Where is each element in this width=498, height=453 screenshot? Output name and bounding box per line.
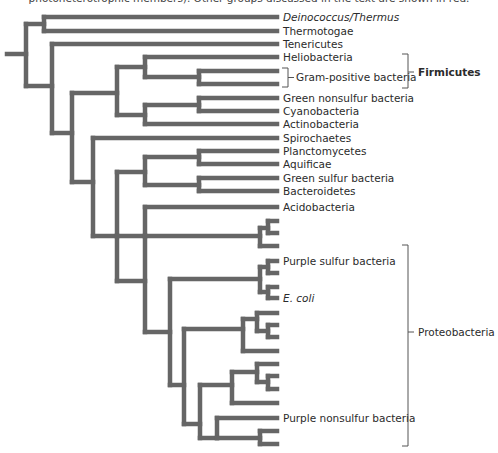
leaf-label-gram-positive: Gram-positive bacteria (296, 71, 417, 83)
leaf-label-deinococcus: Deinococcus/Thermus (283, 11, 399, 23)
leaf-label-bacteroidetes: Bacteroidetes (283, 185, 356, 197)
leaf-label-actinobacteria: Actinobacteria (283, 118, 359, 130)
group-bracket (282, 68, 288, 87)
leaf-label-purple-sulfur: Purple sulfur bacteria (283, 255, 396, 267)
leaf-label-green-sulfur: Green sulfur bacteria (283, 172, 394, 184)
group-label-proteobacteria: Proteobacteria (418, 326, 495, 338)
leaf-label-purple-nonsulfur: Purple nonsulfur bacteria (283, 412, 415, 424)
leaf-label-tenericutes: Tenericutes (283, 38, 343, 50)
leaf-label-cyanobacteria: Cyanobacteria (283, 105, 359, 117)
leaf-label-spirochaetes: Spirochaetes (283, 132, 351, 144)
leaf-label-e-coli: E. coli (283, 292, 314, 304)
group-label-firmicutes: Firmicutes (418, 66, 481, 78)
leaf-label-aquificae: Aquificae (283, 158, 332, 170)
leaf-label-heliobacteria: Heliobacteria (283, 51, 353, 63)
leaf-label-green-nonsulfur: Green nonsulfur bacteria (283, 92, 414, 104)
leaf-label-acidobacteria: Acidobacteria (283, 201, 355, 213)
leaf-label-planctomycetes: Planctomycetes (283, 145, 366, 157)
leaf-label-thermotogae: Thermotogae (283, 25, 353, 37)
